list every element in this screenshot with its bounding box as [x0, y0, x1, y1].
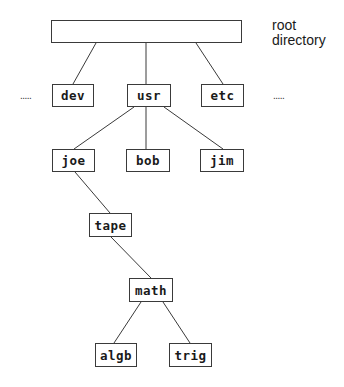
node-jim: jim: [200, 149, 244, 172]
node-math: math: [129, 278, 173, 302]
node-root: [51, 20, 242, 43]
edge-tape-math: [111, 237, 151, 278]
root-directory-text: root directory: [272, 18, 332, 48]
tree-edges: [0, 0, 344, 387]
edge-root-etc: [196, 43, 223, 84]
node-algb: algb: [95, 343, 137, 367]
edge-usr-jim: [164, 107, 223, 149]
edge-math-trig: [163, 302, 190, 343]
node-usr: usr: [127, 84, 171, 107]
node-tape: tape: [89, 213, 132, 237]
ellipsis-left: .....: [20, 90, 31, 101]
edge-usr-joe: [74, 107, 134, 149]
node-dev: dev: [52, 84, 94, 107]
node-joe: joe: [52, 149, 95, 172]
root-directory-label: root directory: [272, 18, 332, 48]
edge-joe-tape: [75, 172, 110, 213]
node-bob: bob: [126, 149, 170, 172]
node-etc: etc: [201, 84, 244, 107]
node-trig: trig: [169, 343, 212, 367]
edge-math-algb: [114, 302, 141, 343]
edge-root-dev: [73, 43, 96, 84]
ellipsis-right: .....: [273, 90, 284, 101]
